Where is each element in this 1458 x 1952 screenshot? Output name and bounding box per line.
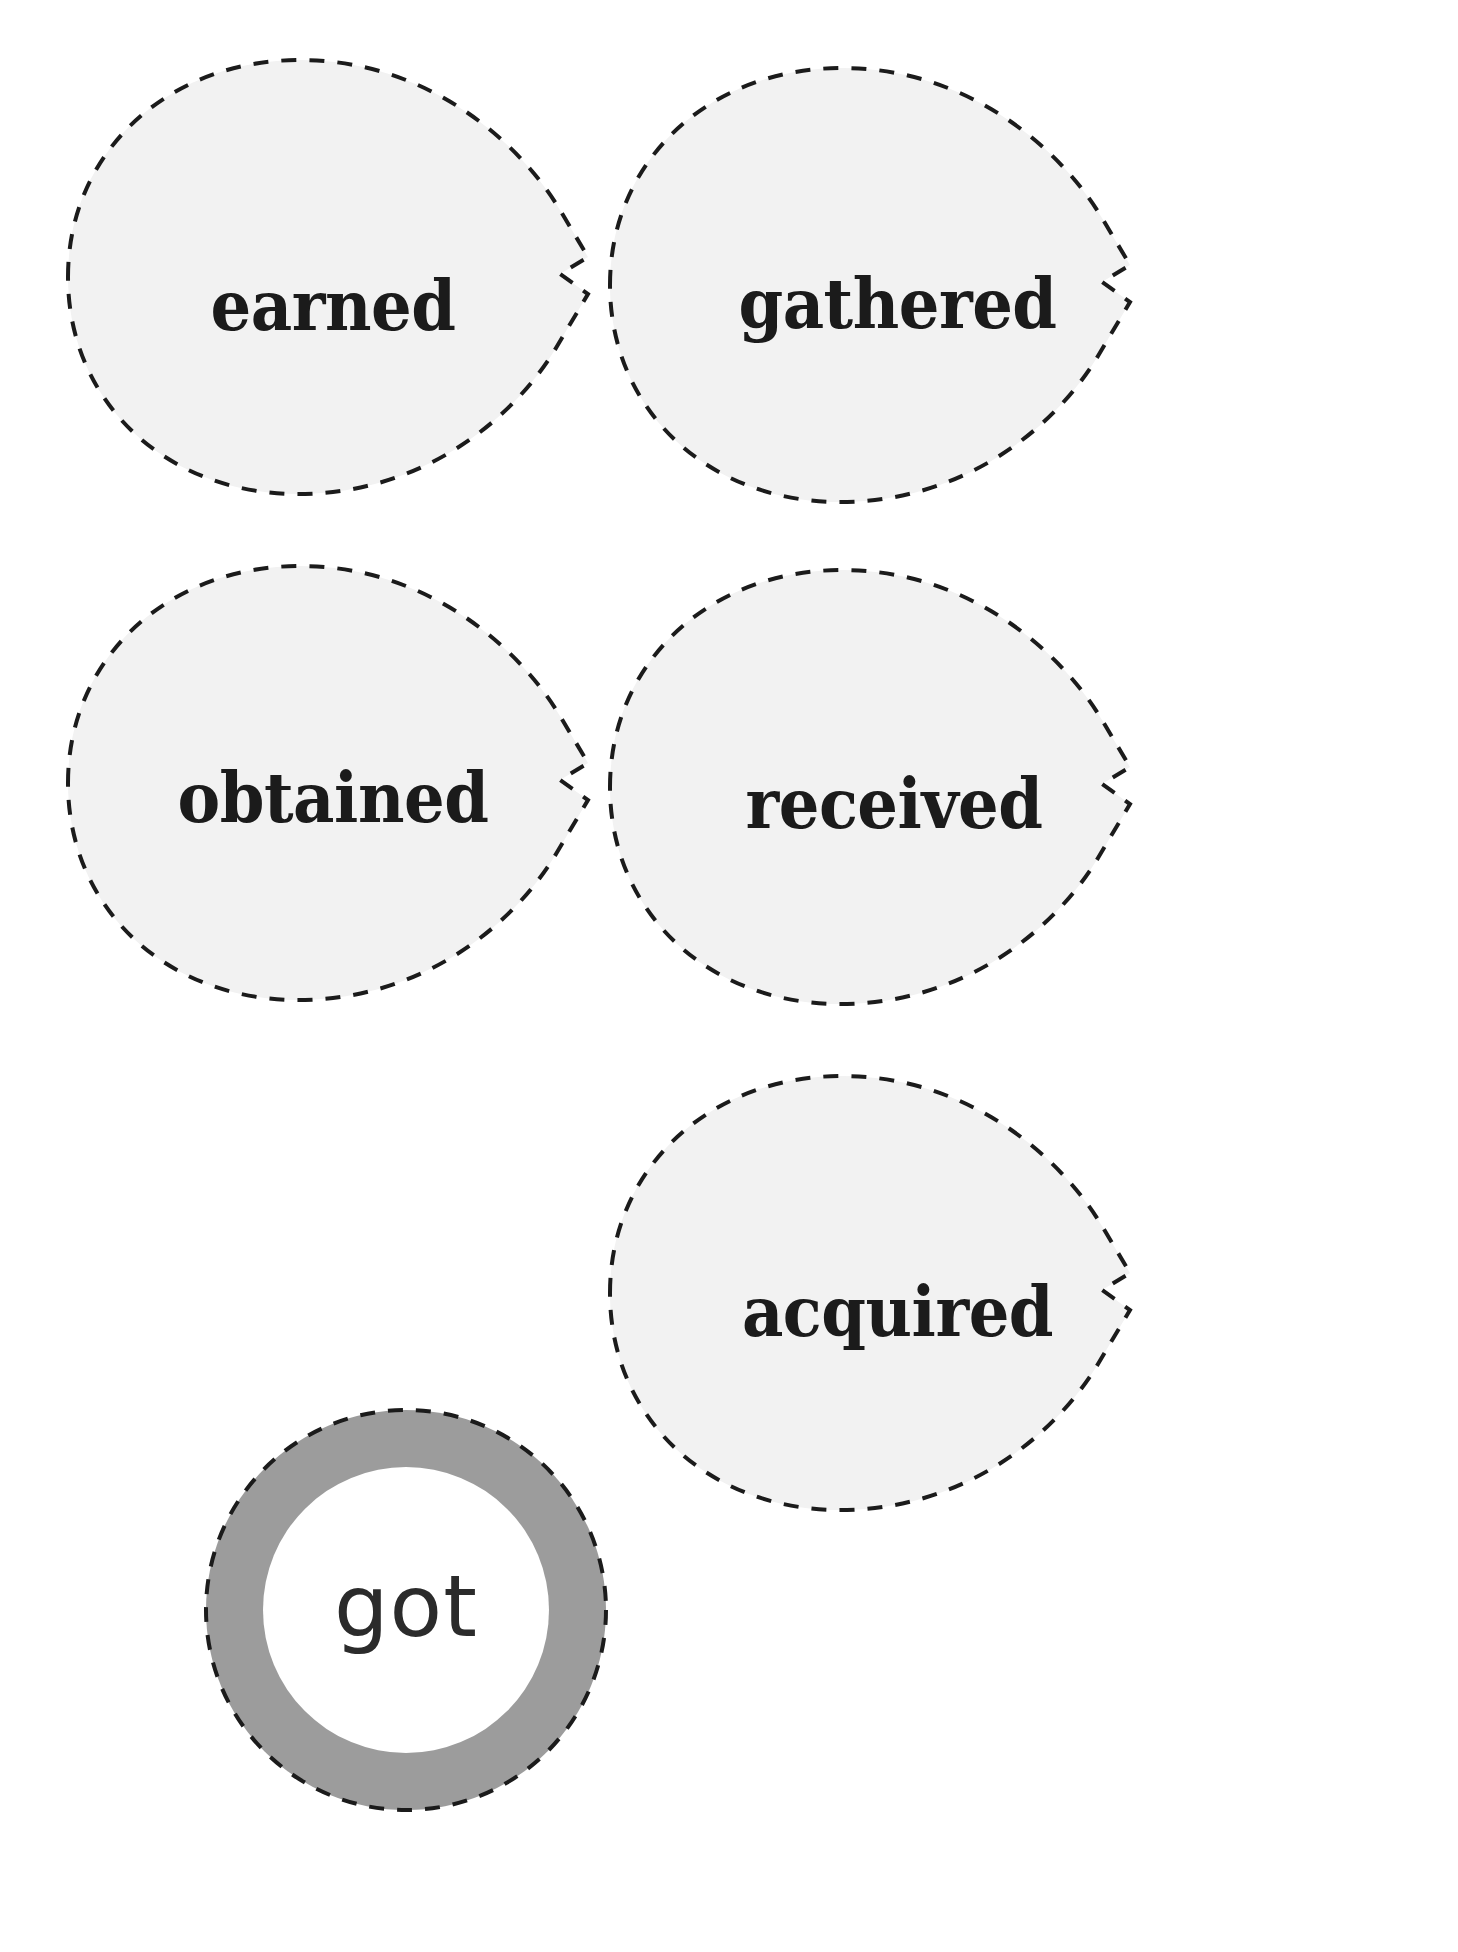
petal-word-label: earned (48, 271, 608, 340)
worksheet-page: earned gathered obtained received (0, 0, 1458, 1952)
petal-word-label: acquired (590, 1277, 1150, 1346)
cutout-piece-petal-obtained[interactable]: obtained (48, 548, 608, 1018)
cutout-piece-petal-received[interactable]: received (590, 552, 1150, 1022)
cutout-piece-circle-got[interactable]: got (196, 1400, 616, 1820)
petal-word-label: gathered (590, 269, 1150, 338)
petal-word-label: obtained (48, 763, 608, 832)
cutout-piece-petal-gathered[interactable]: gathered (590, 50, 1150, 520)
cutout-piece-petal-acquired[interactable]: acquired (590, 1058, 1150, 1528)
cutout-piece-petal-earned[interactable]: earned (48, 42, 608, 512)
circle-word-label: got (196, 1563, 616, 1649)
petal-word-label: received (590, 769, 1150, 838)
